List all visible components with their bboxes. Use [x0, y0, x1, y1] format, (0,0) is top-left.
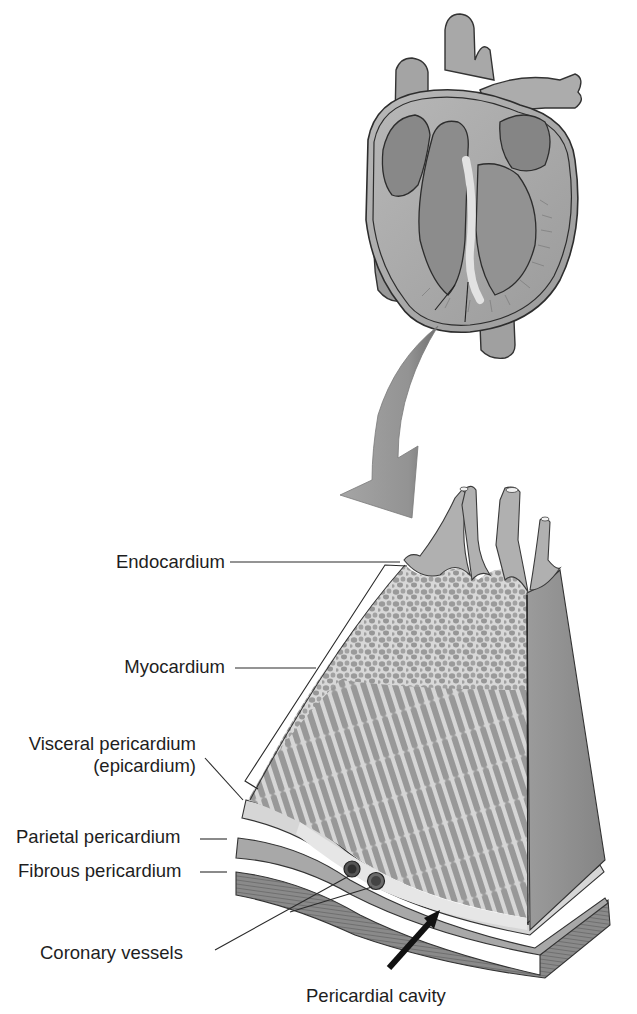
- label-coronary-vessels: Coronary vessels: [40, 942, 183, 964]
- trabeculae-carneae: [404, 486, 560, 592]
- heart-cross-section-illustration: [366, 14, 581, 358]
- zoom-arrow: [340, 326, 438, 518]
- label-visceral-pericardium: Visceral pericardium (epicardium): [13, 733, 196, 777]
- aorta: [445, 14, 494, 80]
- label-visceral-line1: Visceral pericardium: [13, 733, 196, 755]
- label-parietal-pericardium: Parietal pericardium: [16, 826, 181, 848]
- label-pericardial-cavity: Pericardial cavity: [306, 985, 446, 1007]
- label-myocardium: Myocardium: [124, 656, 225, 678]
- visceral-leader: [205, 758, 243, 800]
- label-visceral-line2: (epicardium): [13, 755, 196, 777]
- heart-wall-tissue-block: [236, 486, 610, 978]
- label-endocardium: Endocardium: [116, 551, 225, 573]
- label-fibrous-pericardium: Fibrous pericardium: [18, 860, 181, 882]
